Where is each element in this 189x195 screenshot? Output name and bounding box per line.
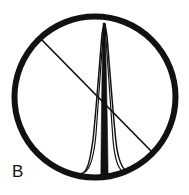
panel-label: B [12, 162, 23, 182]
figure-container: B [0, 0, 189, 195]
figure-background [0, 0, 189, 195]
waveform-circle-diagram [0, 0, 189, 195]
